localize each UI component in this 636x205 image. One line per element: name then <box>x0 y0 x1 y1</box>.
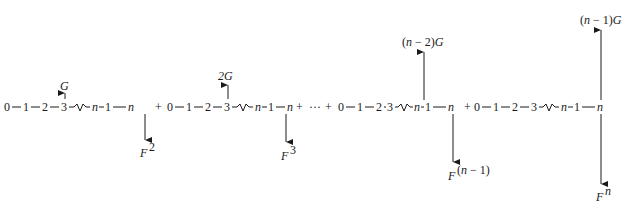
node-1: 1 <box>493 100 499 114</box>
load-label-F: F <box>595 190 604 204</box>
load-label-n-minus-1-G: (n − 1)G <box>580 13 622 27</box>
node-1-after-n: 1 <box>105 100 111 114</box>
node-n-end: n <box>128 100 134 114</box>
chain-group-3: 0 1 2 3 n 1 n (n − 2)G F (n − 1) + <box>338 35 490 183</box>
chain-group-4: 0 1 2 3 n 1 n (n − 1)G F n <box>474 13 622 204</box>
node-3: 3 <box>224 100 230 114</box>
node-n-end: n <box>287 100 293 114</box>
chain-group-1: 0 1 2 3 n 1 n G F 2 + <box>4 79 162 160</box>
load-label-F-sup: (n − 1) <box>457 163 490 177</box>
node-1: 1 <box>186 100 192 114</box>
ellipsis-dots: ··· <box>309 100 321 114</box>
node-1: 1 <box>357 100 363 114</box>
node-1: 1 <box>23 100 29 114</box>
node-n-end: n <box>597 100 603 114</box>
plus-operator: + <box>464 100 471 114</box>
zigzag-ellipsis-icon <box>69 104 90 111</box>
load-label-2G: 2G <box>218 69 233 83</box>
node-0: 0 <box>474 100 480 114</box>
zigzag-ellipsis-icon <box>539 104 559 111</box>
node-3: 3 <box>61 100 67 114</box>
load-label-F-sup: 3 <box>290 143 296 157</box>
chain-group-2: 0 1 2 3 n 1 n 2G F 3 + ··· + <box>167 69 332 163</box>
node-n: n <box>92 100 98 114</box>
node-n: n <box>561 100 567 114</box>
zigzag-ellipsis-icon <box>395 104 413 111</box>
chain-sum-diagram: 0 1 2 3 n 1 n G F 2 + 0 1 2 3 n 1 n <box>0 0 636 205</box>
node-2: 2 <box>376 100 382 114</box>
zigzag-ellipsis-icon <box>232 104 253 111</box>
load-label-F-sup: 2 <box>149 140 155 154</box>
node-2: 2 <box>205 100 211 114</box>
node-n: n <box>414 100 420 114</box>
node-1-after-n: 1 <box>574 100 580 114</box>
node-0: 0 <box>338 100 344 114</box>
node-n: n <box>255 100 261 114</box>
node-2: 2 <box>42 100 48 114</box>
node-n-end: n <box>448 100 454 114</box>
plus-operator: + <box>296 100 303 114</box>
node-3: 3 <box>387 100 393 114</box>
load-label-G: G <box>60 79 69 93</box>
plus-operator: + <box>155 100 162 114</box>
load-label-F-sup: n <box>605 184 611 198</box>
node-3: 3 <box>531 100 537 114</box>
load-label-F: F <box>447 169 456 183</box>
node-0: 0 <box>167 100 173 114</box>
plus-operator: + <box>325 100 332 114</box>
node-1-after-n: 1 <box>268 100 274 114</box>
node-2: 2 <box>512 100 518 114</box>
node-1-after-n: 1 <box>425 100 431 114</box>
load-label-F: F <box>139 146 148 160</box>
load-label-F: F <box>280 149 289 163</box>
node-0: 0 <box>4 100 10 114</box>
load-label-n-minus-2-G: (n − 2)G <box>402 35 444 49</box>
